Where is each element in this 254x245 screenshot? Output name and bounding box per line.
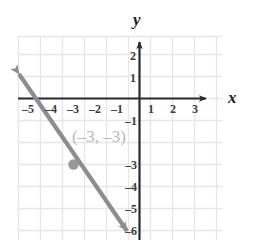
point-coordinate-label: (–3, –3) (72, 128, 126, 145)
x-tick-label-2: 2 (170, 103, 176, 115)
y-tick-label-neg1: –1 (125, 115, 137, 127)
x-tick-label-1: 1 (148, 103, 154, 115)
y-tick-label-neg5: –5 (125, 203, 137, 215)
plotted-point (68, 159, 78, 169)
graph-figure: –5 –4 –3 –2 –1 1 2 3 2 1 –1 –3 –4 –5 –6 … (0, 0, 254, 245)
y-axis-label: y (133, 11, 141, 28)
x-tick-label-neg2: –2 (89, 103, 101, 115)
x-tick-label-neg3: –3 (67, 103, 79, 115)
y-tick-label-neg3: –3 (125, 159, 137, 171)
y-tick-label-1: 1 (130, 72, 136, 84)
x-axis-label: x (228, 89, 237, 106)
y-tick-label-neg4: –4 (125, 181, 137, 193)
x-tick-label-neg1: –1 (111, 103, 123, 115)
x-tick-label-neg5: –5 (22, 103, 34, 115)
y-tick-label-neg6: –6 (125, 225, 137, 237)
x-tick-label-neg4: –4 (45, 103, 57, 115)
x-tick-label-3: 3 (192, 103, 198, 115)
y-tick-label-2: 2 (130, 50, 136, 62)
